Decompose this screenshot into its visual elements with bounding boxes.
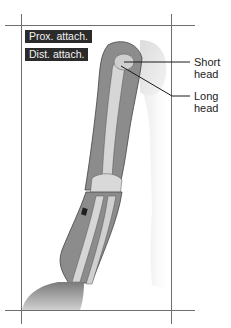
- anatomy-figure: Prox. attach. Dist. attach. Short head L…: [0, 0, 231, 328]
- short-head-label-line2: head: [194, 68, 220, 80]
- short-head-label-line1: Short: [194, 56, 220, 68]
- forearm: [60, 192, 122, 285]
- distal-attachment-button[interactable]: Dist. attach.: [25, 48, 88, 61]
- hand: [22, 282, 84, 310]
- short-head-label: Short head: [194, 56, 220, 80]
- long-head-label-line1: Long: [194, 90, 218, 102]
- upper-arm: [85, 42, 142, 196]
- long-head-label-line2: head: [194, 102, 218, 114]
- long-head-label: Long head: [194, 90, 218, 114]
- proximal-attachment-button[interactable]: Prox. attach.: [25, 30, 92, 43]
